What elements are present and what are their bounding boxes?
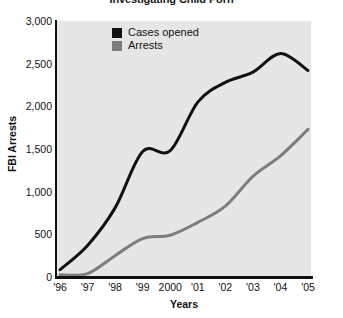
legend-swatch-icon	[112, 28, 122, 38]
plot-lines-svg	[57, 21, 311, 277]
x-tick-label: '98	[108, 281, 122, 293]
x-tick-label: '05	[301, 281, 315, 293]
x-tick-label: '03	[246, 281, 260, 293]
y-tick-label: 1,000	[2, 187, 52, 198]
y-axis-title: FBI Arrests	[6, 104, 18, 184]
legend-label: Cases opened	[128, 27, 199, 38]
series-line-arrests	[60, 129, 308, 275]
x-tick-label: 2000	[159, 281, 182, 293]
y-tick-label: 0	[2, 272, 52, 283]
x-axis-title: Years	[57, 298, 311, 310]
x-tick-label: '99	[136, 281, 150, 293]
legend-label: Arrests	[128, 40, 163, 51]
y-tick-label: 3,000	[2, 16, 52, 27]
plot-area	[57, 21, 311, 277]
x-tick-label: '96	[53, 281, 67, 293]
x-tick-label: '97	[81, 281, 95, 293]
y-tick-label: 500	[2, 229, 52, 240]
legend-item: Cases opened	[112, 27, 199, 38]
y-axis-line	[55, 20, 57, 278]
chart-container: Investigating Child Porn 05001,0001,5002…	[0, 0, 343, 318]
chart-legend: Cases openedArrests	[112, 27, 199, 51]
x-tick-label: '04	[274, 281, 288, 293]
legend-item: Arrests	[112, 40, 199, 51]
x-tick-label: '01	[191, 281, 205, 293]
x-axis-line	[55, 276, 313, 279]
legend-swatch-icon	[112, 41, 122, 51]
x-tick-label: '02	[218, 281, 232, 293]
y-tick-label: 2,500	[2, 59, 52, 70]
x-axis-tick-labels: '96'97'98'992000'01'02'03'04'05	[57, 281, 311, 297]
